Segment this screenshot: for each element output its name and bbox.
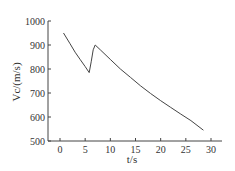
y-axis-label: Vc/(m/s) bbox=[10, 62, 23, 101]
x-tick-label: 10 bbox=[105, 144, 115, 155]
y-tick-label: 800 bbox=[30, 64, 45, 75]
y-tick-label: 700 bbox=[30, 88, 45, 99]
axes: 5006007008009001000051015202530 bbox=[25, 16, 222, 156]
x-tick-label: 20 bbox=[156, 144, 166, 155]
y-tick-label: 1000 bbox=[25, 16, 45, 27]
data-line bbox=[64, 33, 204, 130]
y-tick-label: 500 bbox=[30, 136, 45, 147]
x-tick-label: 5 bbox=[83, 144, 88, 155]
x-tick-label: 0 bbox=[58, 144, 63, 155]
x-tick-label: 30 bbox=[206, 144, 216, 155]
y-tick-label: 900 bbox=[30, 40, 45, 51]
x-tick-label: 25 bbox=[181, 144, 191, 155]
x-axis-label: t/s bbox=[127, 153, 137, 165]
line-chart: 5006007008009001000051015202530 t/s Vc/(… bbox=[0, 0, 235, 171]
y-tick-label: 600 bbox=[30, 112, 45, 123]
